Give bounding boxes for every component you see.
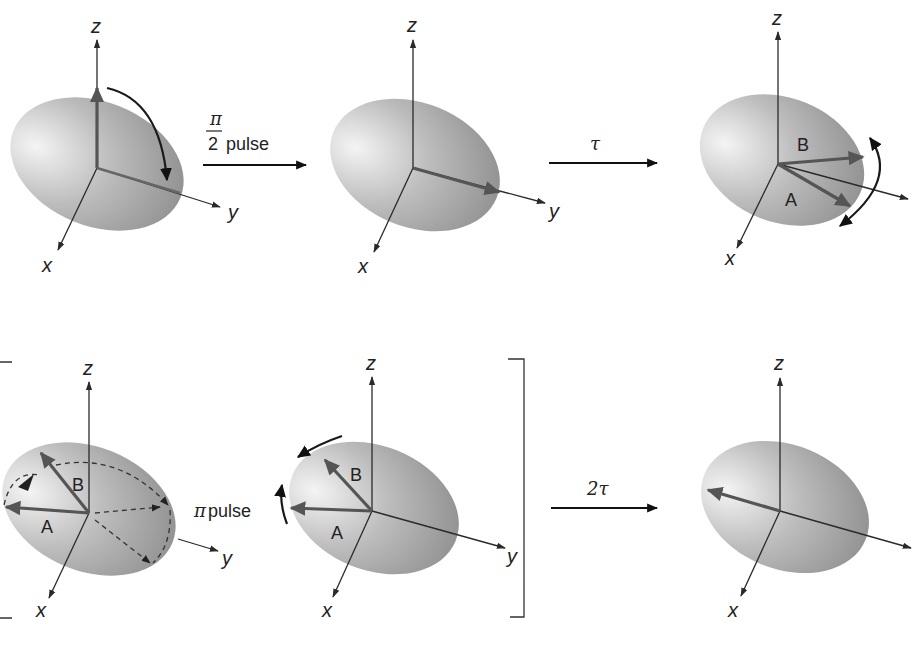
step-label: 2τ: [586, 478, 609, 499]
vector-b-label: B: [350, 465, 362, 485]
diagram-canvas: z y x π 2 pulse z y x τ B A z x: [0, 0, 917, 651]
spin-echo-diagram: z y x π 2 pulse z y x τ B A z x: [0, 0, 917, 651]
panel-2: z y x: [310, 14, 560, 277]
sphere: [680, 71, 884, 250]
y-label: y: [226, 201, 239, 223]
y-axis: [178, 539, 218, 551]
step-suffix: pulse: [208, 501, 251, 521]
sphere: [0, 73, 204, 255]
step-2tau: 2τ: [551, 478, 657, 508]
sphere: [310, 75, 520, 256]
vector-b-label: B: [797, 135, 809, 155]
z-label: z: [90, 15, 101, 37]
step-pi-pulse: π pulse: [193, 500, 251, 521]
refocus-arrow-a-icon: [281, 485, 287, 524]
x-label: x: [41, 254, 53, 276]
x-label: x: [727, 599, 739, 621]
panel-5: B A z y x: [269, 352, 518, 621]
vector-a-label: A: [331, 523, 343, 543]
z-label: z: [771, 7, 782, 29]
step-symbol: π: [193, 500, 207, 521]
y-label: y: [505, 545, 518, 567]
panel-1: z y x: [0, 15, 239, 276]
panel-6: z x: [681, 352, 911, 621]
x-label: x: [35, 599, 47, 621]
vector-a-label: A: [785, 190, 797, 210]
vector-a-label: A: [41, 517, 53, 537]
panel-4: B A z y x: [0, 357, 233, 621]
step-numerator: π: [209, 108, 223, 129]
x-label: x: [321, 599, 333, 621]
step-pi-half-pulse: π 2 pulse: [203, 108, 306, 165]
step-denominator: 2: [208, 134, 218, 154]
x-label: x: [724, 247, 736, 269]
z-label: z: [773, 352, 784, 374]
right-bracket: [508, 359, 524, 617]
vector-b-label: B: [72, 475, 84, 495]
z-label: z: [365, 352, 376, 374]
sphere: [681, 417, 889, 597]
y-label: y: [547, 200, 560, 222]
step-label: τ: [590, 133, 601, 154]
z-label: z: [82, 357, 93, 379]
step-tau: τ: [549, 133, 657, 163]
z-label: z: [406, 14, 417, 36]
y-label: y: [220, 547, 233, 569]
step-suffix: pulse: [226, 134, 269, 154]
x-label: x: [357, 255, 369, 277]
panel-3: B A z x: [680, 7, 908, 269]
